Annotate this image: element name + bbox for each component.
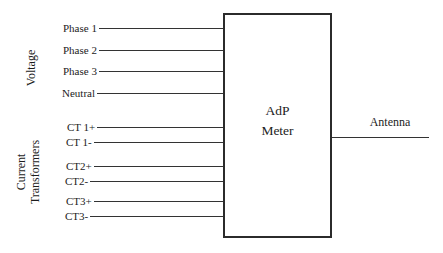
input-row-phase-2: Phase 2 xyxy=(63,43,223,57)
ct2-plus-label: CT2+ xyxy=(66,159,94,173)
antenna-wire xyxy=(332,137,429,138)
adp-meter-label-line1: AdP xyxy=(265,101,289,121)
input-row-ct2-minus: CT2- xyxy=(65,174,223,188)
input-row-phase-1: Phase 1 xyxy=(63,21,223,35)
phase-3-wire xyxy=(99,71,223,72)
phase-1-wire xyxy=(99,28,223,29)
voltage-group-label-text: Voltage xyxy=(24,50,38,86)
current-transformers-label-line2: Transformers xyxy=(29,127,43,217)
input-row-ct1-plus: CT 1+ xyxy=(67,120,223,134)
ct2-plus-wire xyxy=(94,166,223,167)
ct1-minus-wire xyxy=(94,142,223,143)
phase-3-label: Phase 3 xyxy=(63,64,99,78)
neutral-label: Neutral xyxy=(62,86,97,100)
input-row-ct3-plus: CT3+ xyxy=(66,194,223,208)
ct1-plus-label: CT 1+ xyxy=(67,120,97,134)
phase-2-label: Phase 2 xyxy=(63,43,99,57)
input-row-ct1-minus: CT 1- xyxy=(66,135,223,149)
phase-2-wire xyxy=(99,50,223,51)
neutral-wire xyxy=(97,93,223,94)
ct3-plus-label: CT3+ xyxy=(66,194,94,208)
phase-1-label: Phase 1 xyxy=(63,21,99,35)
current-transformers-group-label: Current Transformers xyxy=(15,127,45,217)
antenna-label: Antenna xyxy=(352,115,428,130)
adp-meter-label-line2: Meter xyxy=(261,121,293,141)
ct2-minus-label: CT2- xyxy=(65,174,90,188)
ct3-plus-wire xyxy=(94,201,223,202)
ct2-minus-wire xyxy=(90,181,223,182)
input-row-neutral: Neutral xyxy=(62,86,223,100)
input-row-ct3-minus: CT3- xyxy=(65,209,223,223)
wiring-diagram: Voltage Current Transformers Phase 1 Pha… xyxy=(0,0,443,253)
input-row-phase-3: Phase 3 xyxy=(63,64,223,78)
current-transformers-label-line1: Current xyxy=(15,127,29,217)
ct3-minus-wire xyxy=(90,216,223,217)
voltage-group-label: Voltage xyxy=(25,40,41,96)
ct1-minus-label: CT 1- xyxy=(66,135,94,149)
ct3-minus-label: CT3- xyxy=(65,209,90,223)
ct1-plus-wire xyxy=(97,127,223,128)
input-row-ct2-plus: CT2+ xyxy=(66,159,223,173)
adp-meter-box: AdP Meter xyxy=(223,13,332,238)
